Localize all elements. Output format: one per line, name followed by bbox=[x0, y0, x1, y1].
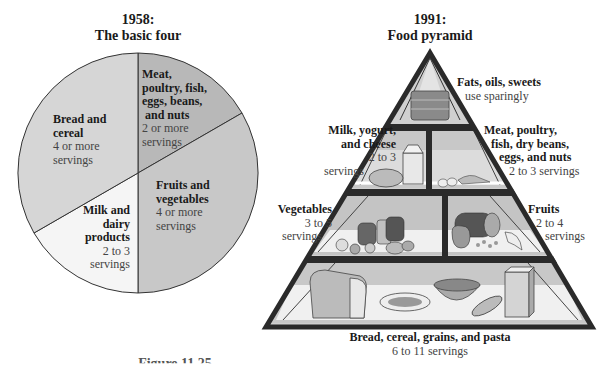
label-servings: 2 to 3 servings bbox=[484, 164, 579, 178]
label-name: Fruits bbox=[528, 202, 559, 216]
pyramid-label-fruits: Fruits 2 to 4 servings bbox=[528, 203, 603, 244]
sweets-icon bbox=[411, 91, 449, 120]
label-servings: 2 to 3 bbox=[369, 150, 396, 164]
pasta-plate-icon bbox=[380, 293, 430, 311]
label-name: eggs, and nuts bbox=[484, 150, 571, 164]
label-servings: servings bbox=[282, 229, 322, 243]
cereal-box-icon bbox=[505, 267, 534, 317]
food-pyramid-graphic bbox=[0, 0, 605, 365]
milk-carton-icon bbox=[403, 145, 423, 184]
label-servings: servings bbox=[324, 164, 364, 178]
pyramid-label-bread: Bread, cereal, grains, and pasta 6 to 11… bbox=[330, 331, 530, 358]
label-name: and cheese bbox=[341, 137, 396, 151]
label-servings: use sparingly bbox=[457, 89, 529, 103]
label-name: fish, dry beans, bbox=[484, 137, 569, 151]
label-servings: 3 to 5 bbox=[305, 216, 332, 230]
label-name: Meat, poultry, bbox=[484, 123, 557, 137]
label-servings: servings bbox=[528, 229, 585, 243]
label-name: Milk, yogurt, bbox=[328, 123, 396, 137]
label-servings: 6 to 11 servings bbox=[392, 344, 468, 358]
pyramid-label-vegetables: Vegetables 3 to 5 servings bbox=[262, 203, 332, 244]
label-name: Bread, cereal, grains, and pasta bbox=[349, 330, 510, 344]
label-name: Fats, oils, sweets bbox=[457, 75, 541, 89]
pyramid-label-meat: Meat, poultry, fish, dry beans, eggs, an… bbox=[484, 124, 604, 178]
label-servings: 2 to 4 bbox=[528, 216, 563, 230]
pyramid-label-fats: Fats, oils, sweets use sparingly bbox=[457, 76, 597, 103]
bread-loaf-icon bbox=[310, 270, 366, 318]
pyramid-label-milk: Milk, yogurt, and cheese 2 to 3 servings bbox=[300, 124, 396, 178]
label-name: Vegetables bbox=[278, 202, 332, 216]
